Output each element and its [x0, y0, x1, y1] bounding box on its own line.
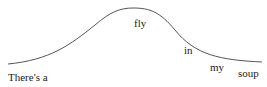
word-fly: fly [134, 18, 146, 29]
word-soup: soup [238, 68, 259, 79]
word-my: my [210, 62, 224, 73]
word-theres-a: There's a [8, 72, 48, 83]
word-in: in [184, 45, 193, 56]
